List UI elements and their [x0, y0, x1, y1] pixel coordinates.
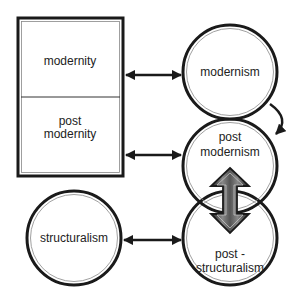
modernism-label: modernism: [200, 65, 259, 79]
modernity-rectangle: modernity post modernity: [18, 18, 123, 176]
post-modernity-label-line2: modernity: [44, 127, 97, 141]
structuralism-node: structuralism: [27, 191, 121, 285]
diagram-canvas: modernity post modernity post modernism …: [0, 0, 299, 302]
post-structuralism-label-line2: structuralism: [196, 261, 264, 275]
post-modernity-label-line1: post: [59, 114, 82, 128]
modernism-to-postmodernism-curved-arrow: [270, 104, 282, 134]
post-structuralism-label-line1: post -: [215, 247, 245, 261]
post-modernism-label-line1: post: [219, 130, 242, 144]
structuralism-label: structuralism: [40, 231, 108, 245]
modernity-label: modernity: [44, 54, 97, 68]
post-modernism-label-line2: modernism: [200, 145, 259, 159]
modernism-node: modernism: [183, 25, 277, 119]
